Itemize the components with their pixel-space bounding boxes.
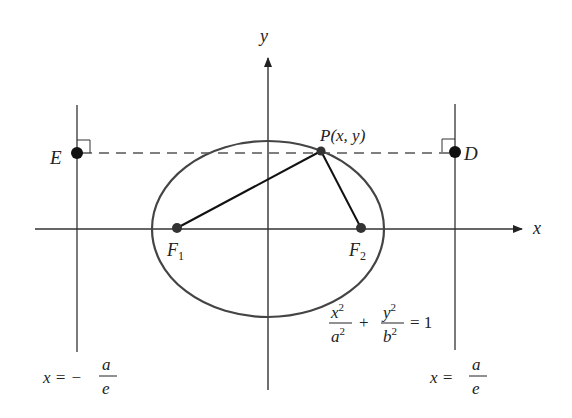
point-D-dot (449, 146, 461, 158)
svg-text:a: a (102, 355, 111, 374)
svg-text:a: a (472, 355, 481, 374)
segment-F2-P (321, 151, 361, 228)
point-P-dot (317, 147, 326, 156)
focus-F1-label: F1 (166, 240, 184, 263)
point-D-label: D (463, 143, 478, 164)
svg-text:x2: x2 (330, 301, 344, 322)
ellipse-equation: x2 a2 + y2 b2 = 1 (329, 301, 432, 346)
segment-F1-P (177, 151, 321, 228)
svg-text:x = −: x = − (42, 368, 82, 387)
focus-F1-dot (172, 223, 182, 233)
point-P-label: P(x, y) (319, 126, 366, 145)
point-E-dot (71, 147, 83, 159)
svg-text:a2: a2 (331, 325, 345, 346)
svg-text:e: e (472, 379, 480, 398)
directrix-right-equation: x = a e (429, 355, 487, 398)
ellipse-diagram: y x E D P(x, y) F1 F2 x2 a2 + y2 b2 = 1 … (0, 0, 572, 418)
point-E-label: E (49, 147, 62, 168)
diagram-canvas: y x E D P(x, y) F1 F2 x2 a2 + y2 b2 = 1 … (0, 0, 572, 418)
svg-text:y2: y2 (381, 301, 396, 322)
y-axis-label: y (258, 26, 268, 46)
svg-text:x =: x = (429, 368, 453, 387)
svg-text:e: e (102, 379, 110, 398)
focus-F2-label: F2 (348, 240, 366, 263)
svg-text:= 1: = 1 (410, 313, 432, 332)
svg-text:b2: b2 (383, 325, 397, 346)
directrix-left-equation: x = − a e (42, 355, 117, 398)
focus-F2-dot (356, 223, 366, 233)
x-axis-label: x (532, 218, 541, 238)
svg-text:+: + (359, 313, 369, 332)
